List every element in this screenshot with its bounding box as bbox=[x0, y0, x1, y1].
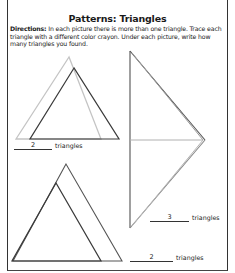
answer-unit-right: triangles bbox=[192, 214, 220, 222]
answer-unit-top-left: triangles bbox=[55, 142, 83, 150]
picture-top-left bbox=[16, 57, 119, 139]
answer-blank-bottom-left[interactable]: 2 bbox=[130, 253, 173, 262]
answer-bottom-left: 2 triangles bbox=[130, 253, 204, 262]
picture-bottom-left bbox=[12, 164, 122, 261]
answer-blank-top-left[interactable]: 2 bbox=[14, 141, 52, 150]
picture-right bbox=[130, 51, 205, 228]
answer-right: 3 triangles bbox=[150, 213, 220, 222]
answer-unit-bottom-left: triangles bbox=[176, 254, 204, 262]
answer-top-left: 2 triangles bbox=[14, 141, 83, 150]
answer-blank-right[interactable]: 3 bbox=[150, 213, 189, 222]
triangle-figures bbox=[0, 0, 235, 273]
